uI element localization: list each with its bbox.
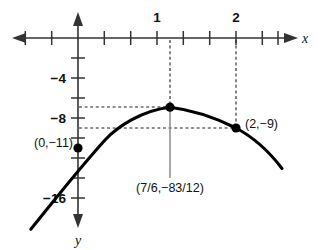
y-axis-up-arrow-icon	[73, 12, 83, 26]
point-two-label: (2,−9)	[245, 117, 278, 131]
y-axis-down-arrow-icon	[73, 214, 83, 228]
point-two-marker[interactable]	[231, 123, 240, 132]
point-vertex-marker[interactable]	[165, 103, 174, 112]
y-tick-label-minus4: −4	[51, 71, 67, 86]
parabola-svg: 1 2 x −4 −8 −16 y	[0, 0, 320, 250]
graph-figure: 1 2 x −4 −8 −16 y	[0, 0, 320, 250]
x-axis-label: x	[301, 31, 309, 46]
x-tick-label-2: 2	[232, 10, 240, 25]
x-tick-label-1: 1	[153, 10, 161, 25]
point-y-intercept-marker[interactable]	[73, 143, 82, 152]
guide-lines-group	[79, 40, 236, 128]
point-y-intercept-label: (0,−11)	[34, 136, 73, 150]
x-axis-group: 1 2 x	[12, 10, 309, 46]
y-axis-label: y	[73, 233, 82, 248]
x-axis-right-arrow-icon	[284, 33, 298, 43]
x-axis-left-arrow-icon	[12, 33, 26, 43]
point-vertex-label: (7/6,−83/12)	[136, 181, 204, 195]
y-axis-group: −4 −8 −16 y	[43, 12, 85, 248]
y-tick-label-minus8: −8	[51, 111, 67, 126]
